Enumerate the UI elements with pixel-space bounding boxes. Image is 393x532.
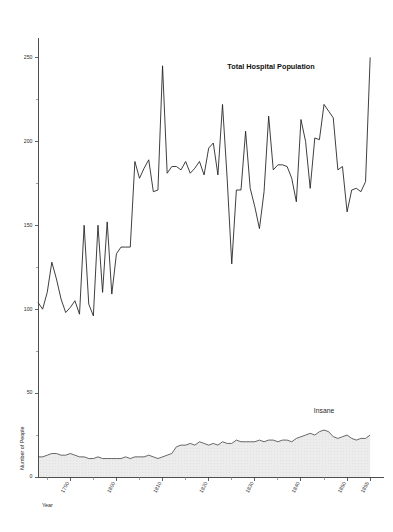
x-axis-title: Year [42,502,53,508]
series-annotations: Total Hospital Population Insane [227,62,334,414]
total-hospital-population-label: Total Hospital Population [227,62,314,71]
axes: 050100150200250 179018001810182018301840… [24,38,384,494]
x-tick-label: 1830 [244,481,255,494]
x-tick-label: 1820 [198,481,209,494]
y-tick-label: 0 [30,473,33,479]
insane-area-fill [38,430,370,477]
x-axis-ticks: 17901800181018201830184018501855 [47,477,370,494]
y-axis-ticks: 050100150200250 [24,54,38,480]
y-tick-label: 250 [24,54,33,60]
x-tick-label: 1850 [336,481,347,494]
y-tick-label: 100 [24,306,33,312]
x-tick-label: 1855 [359,481,370,494]
x-tick-label: 1810 [152,481,163,494]
x-tick-label: 1800 [106,481,117,494]
historical-population-chart: 050100150200250 179018001810182018301840… [0,0,393,532]
y-axis-title: Number of People [19,427,25,470]
insane-area-series [38,430,370,477]
x-tick-label: 1840 [290,481,301,494]
insane-label: Insane [314,407,335,414]
total-line-path [38,57,370,315]
chart-container: 050100150200250 179018001810182018301840… [0,0,393,532]
x-tick-label: 1790 [59,481,70,494]
y-tick-label: 200 [24,138,33,144]
y-tick-label: 150 [24,222,33,228]
total-population-series [38,57,370,315]
y-tick-label: 50 [27,389,33,395]
